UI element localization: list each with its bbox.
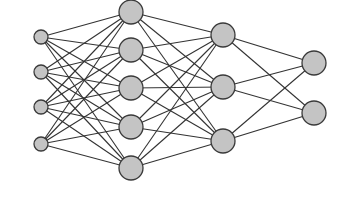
output-node-1 <box>302 101 326 125</box>
hidden-2-node-1 <box>211 75 235 99</box>
neural-network-diagram <box>0 0 343 203</box>
connection-hidden-1-3-hidden-2-2 <box>131 127 223 141</box>
output-node-0 <box>302 51 326 75</box>
connections <box>41 12 314 168</box>
connection-hidden-2-2-output-1 <box>223 113 314 141</box>
hidden-1-node-0 <box>119 0 143 24</box>
hidden-1-node-1 <box>119 38 143 62</box>
connection-input-1-hidden-1-1 <box>41 50 131 72</box>
connection-hidden-1-2-hidden-2-1 <box>131 87 223 88</box>
connection-input-0-hidden-1-0 <box>41 12 131 37</box>
connection-input-1-hidden-1-4 <box>41 72 131 168</box>
connection-hidden-1-4-hidden-2-0 <box>131 35 223 168</box>
input-node-0 <box>34 30 48 44</box>
hidden-1-node-3 <box>119 115 143 139</box>
input-node-1 <box>34 65 48 79</box>
connection-hidden-1-4-hidden-2-2 <box>131 141 223 168</box>
hidden-1-node-4 <box>119 156 143 180</box>
hidden-2-node-0 <box>211 23 235 47</box>
connection-hidden-2-0-output-0 <box>223 35 314 63</box>
connection-input-0-hidden-1-4 <box>41 37 131 168</box>
connection-input-0-hidden-1-1 <box>41 37 131 50</box>
connection-input-0-hidden-1-3 <box>41 37 131 127</box>
input-node-3 <box>34 137 48 151</box>
hidden-1-node-2 <box>119 76 143 100</box>
hidden-2-node-2 <box>211 129 235 153</box>
connection-input-2-hidden-1-0 <box>41 12 131 107</box>
input-node-2 <box>34 100 48 114</box>
connection-hidden-2-1-output-1 <box>223 87 314 113</box>
